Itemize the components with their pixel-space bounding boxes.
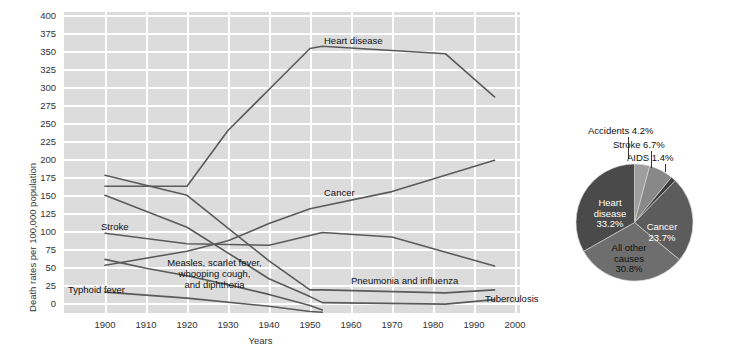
- y-tick: 300: [0, 83, 56, 92]
- series-label-heart-disease: Heart disease: [324, 35, 383, 46]
- pie-label-heart-line3: 33.2%: [580, 219, 640, 230]
- y-tick: 225: [0, 137, 56, 146]
- pie-label-cancer: Cancer 23.7%: [636, 222, 688, 243]
- x-tick: 1940: [249, 319, 289, 330]
- x-tick: 1980: [413, 319, 453, 330]
- y-tick: 100: [0, 227, 56, 236]
- x-tick: 1910: [126, 319, 166, 330]
- series-label-measles-line3: and diphtheria: [132, 279, 297, 290]
- pie-label-other-line1: All other: [600, 243, 658, 254]
- y-tick: 75: [0, 245, 56, 254]
- pie-label-all-other-causes: All other causes 30.8%: [600, 243, 658, 275]
- x-tick: 1920: [167, 319, 207, 330]
- series-line-typhoid-fever: [105, 292, 322, 312]
- y-tick: 375: [0, 29, 56, 38]
- chart-page: Death rates per 100,000 population 400 3…: [0, 0, 753, 355]
- y-tick: 400: [0, 11, 56, 20]
- pie-callout-stroke: Stroke 6.7%: [613, 139, 665, 150]
- series-label-measles-line2: whooping cough,: [132, 268, 297, 279]
- series-label-pneumonia-influenza: Pneumonia and influenza: [351, 275, 458, 286]
- y-tick: 25: [0, 281, 56, 290]
- gridline-horizontal: [64, 313, 520, 315]
- x-tick: 2000: [495, 319, 535, 330]
- y-tick: 325: [0, 65, 56, 74]
- pie-callout-aids: AIDS 1.4%: [627, 152, 673, 163]
- pie-label-cancer-line1: Cancer: [636, 222, 688, 233]
- y-tick: 150: [0, 191, 56, 200]
- y-tick: 275: [0, 101, 56, 110]
- y-tick: 200: [0, 155, 56, 164]
- series-label-cancer: Cancer: [324, 187, 355, 198]
- pie-callout-accidents: Accidents 4.2%: [588, 125, 653, 136]
- x-tick: 1950: [290, 319, 330, 330]
- y-tick: 250: [0, 119, 56, 128]
- y-tick: 125: [0, 209, 56, 218]
- y-tick: 0: [0, 299, 56, 308]
- y-tick: 175: [0, 173, 56, 182]
- series-label-tuberculosis: Tuberculosis: [485, 293, 539, 304]
- series-label-typhoid-fever: Typhoid fever: [68, 284, 125, 295]
- pie-label-heart-disease: Heart disease 33.2%: [580, 198, 640, 230]
- y-tick: 350: [0, 47, 56, 56]
- y-tick: 50: [0, 263, 56, 272]
- pie-label-heart-line1: Heart: [580, 198, 640, 209]
- pie-chart: Heart disease 33.2% Cancer 23.7% All oth…: [576, 164, 693, 281]
- pie-label-other-line3: 30.8%: [600, 264, 658, 275]
- x-tick: 1990: [454, 319, 494, 330]
- x-axis-title: Years: [0, 335, 753, 346]
- series-line-heart-disease: [105, 46, 495, 186]
- leader-line-aids: [665, 164, 666, 172]
- line-chart-plot-area: Heart disease Cancer Stroke Typhoid feve…: [64, 12, 520, 313]
- x-tick: 1960: [331, 319, 371, 330]
- x-tick: 1970: [372, 319, 412, 330]
- x-tick: 1930: [208, 319, 248, 330]
- series-label-measles-line1: Measles, scarlet fever,: [132, 257, 297, 268]
- x-axis-title-text: Years: [249, 335, 273, 346]
- x-tick: 1900: [85, 319, 125, 330]
- series-label-measles-group: Measles, scarlet fever, whooping cough, …: [132, 257, 297, 290]
- series-label-stroke: Stroke: [101, 221, 128, 232]
